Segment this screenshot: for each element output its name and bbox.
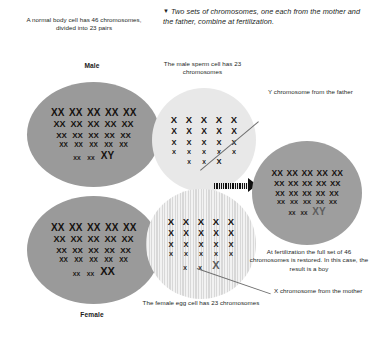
chromosome-pair bbox=[332, 169, 343, 178]
chromosome-pair bbox=[71, 235, 83, 244]
chromosome-single bbox=[213, 229, 220, 238]
callout-x-from-mother: X chromosome from the mother bbox=[274, 287, 370, 295]
chromosome-single bbox=[213, 217, 220, 227]
chromosome-pair bbox=[74, 142, 84, 149]
caption-fertilization: At fertilization the full set of 46 chro… bbox=[249, 248, 369, 273]
chromosome-pair bbox=[88, 235, 100, 244]
karyotype-row bbox=[51, 223, 136, 233]
label-female: Female bbox=[52, 311, 132, 318]
chromosome-pair bbox=[122, 235, 134, 244]
chromosome-single bbox=[168, 217, 175, 227]
chromosome-pair bbox=[105, 223, 118, 233]
chromosome-pair bbox=[289, 190, 299, 197]
karyotype-row bbox=[59, 257, 129, 264]
chromosome-pair bbox=[87, 108, 100, 118]
chromosome-pair bbox=[54, 235, 66, 244]
male-body-cell bbox=[27, 82, 160, 187]
sex-chromosome-pair-xy bbox=[312, 207, 326, 217]
karyotype-row bbox=[275, 190, 339, 197]
chromosome-pair bbox=[302, 169, 313, 178]
figure-header: ▼Two sets of chromosomes, one each from … bbox=[163, 6, 371, 27]
chromosome-pair bbox=[105, 120, 117, 129]
label-male: Male bbox=[52, 62, 132, 69]
chromosome-pair bbox=[119, 257, 129, 264]
chromosome-pair bbox=[300, 211, 308, 216]
chromosome-pair bbox=[277, 199, 286, 205]
chromosome-single bbox=[186, 149, 193, 155]
chromosome-pair bbox=[119, 142, 129, 149]
sperm-cell bbox=[152, 88, 256, 192]
chromosome-pair bbox=[89, 142, 99, 149]
chromosome-pair bbox=[274, 180, 284, 188]
chromosome-single bbox=[183, 241, 190, 249]
chromosome-single bbox=[216, 139, 223, 147]
chromosome-pair bbox=[88, 120, 100, 129]
karyotype-row bbox=[168, 217, 235, 227]
diagram-canvas: ▼Two sets of chromosomes, one each from … bbox=[0, 0, 375, 341]
chromosome-pair bbox=[316, 199, 325, 205]
chromosome-pair bbox=[302, 180, 312, 188]
chromosome-single bbox=[168, 251, 175, 257]
chromosome-pair bbox=[316, 190, 326, 197]
chromosome-pair bbox=[88, 247, 99, 255]
chromosome-single bbox=[213, 251, 220, 257]
karyotype-row bbox=[171, 139, 238, 147]
figure-header-text: Two sets of chromosomes, one each from t… bbox=[163, 7, 360, 26]
karyotype-row bbox=[288, 207, 326, 217]
chromosome-pair bbox=[272, 169, 283, 178]
chromosome-pair bbox=[104, 132, 115, 140]
karyotype-row bbox=[56, 132, 131, 140]
karyotype-row bbox=[168, 229, 235, 238]
chromosome-pair bbox=[51, 108, 64, 118]
chromosome-single bbox=[213, 241, 220, 249]
karyotype-row bbox=[171, 149, 238, 155]
karyotype-row bbox=[171, 115, 238, 125]
chromosome-pair bbox=[54, 120, 66, 129]
chromosome-single bbox=[171, 115, 178, 125]
karyotype-row bbox=[56, 247, 131, 255]
karyotype-row bbox=[171, 127, 238, 136]
karyotype-row bbox=[51, 108, 136, 118]
karyotype-row bbox=[272, 169, 343, 178]
sex-chromosome-pair-xx bbox=[100, 266, 115, 277]
chromosome-pair bbox=[120, 247, 131, 255]
karyotype-row bbox=[186, 158, 223, 166]
chromosome-single bbox=[228, 229, 235, 238]
chromosome-pair bbox=[104, 142, 114, 149]
chromosome-pair bbox=[72, 247, 83, 255]
chromosome-pair bbox=[104, 257, 114, 264]
chromosome-single bbox=[186, 139, 193, 147]
chromosome-single bbox=[186, 115, 193, 125]
chromosome-pair bbox=[86, 272, 95, 278]
chromosome-pair bbox=[329, 199, 338, 205]
chromosome-single bbox=[198, 251, 205, 257]
chromosome-pair bbox=[72, 132, 83, 140]
caption-sperm-cell: The male sperm cell has 23 chromosomes bbox=[145, 60, 260, 77]
chromosome-pair bbox=[290, 199, 299, 205]
chromosome-pair bbox=[275, 190, 285, 197]
karyotype-row bbox=[59, 142, 129, 149]
chromosome-single bbox=[231, 149, 238, 155]
sex-chromosome-x bbox=[212, 260, 221, 271]
female-body-cell bbox=[27, 196, 160, 304]
chromosome-pair bbox=[120, 132, 131, 140]
chromosome-pair bbox=[56, 247, 67, 255]
chromosome-single bbox=[216, 115, 223, 125]
chromosome-single bbox=[171, 127, 178, 136]
chromosome-pair bbox=[330, 180, 340, 188]
chromosome-single bbox=[198, 241, 205, 249]
caption-body-cell: A normal body cell has 46 chromosomes, d… bbox=[19, 16, 149, 33]
karyotype-row bbox=[277, 199, 338, 205]
chromosome-pair bbox=[317, 169, 328, 178]
chromosome-pair bbox=[71, 120, 83, 129]
karyotype-row bbox=[168, 251, 235, 257]
chromosome-single bbox=[228, 251, 235, 257]
chromosome-pair bbox=[105, 108, 118, 118]
chromosome-pair bbox=[105, 235, 117, 244]
chromosome-pair bbox=[329, 190, 339, 197]
male-karyotype bbox=[27, 82, 160, 187]
chromosome-single bbox=[231, 115, 238, 125]
chromosome-pair bbox=[59, 142, 69, 149]
chromosome-pair bbox=[88, 132, 99, 140]
chromosome-single bbox=[183, 229, 190, 238]
